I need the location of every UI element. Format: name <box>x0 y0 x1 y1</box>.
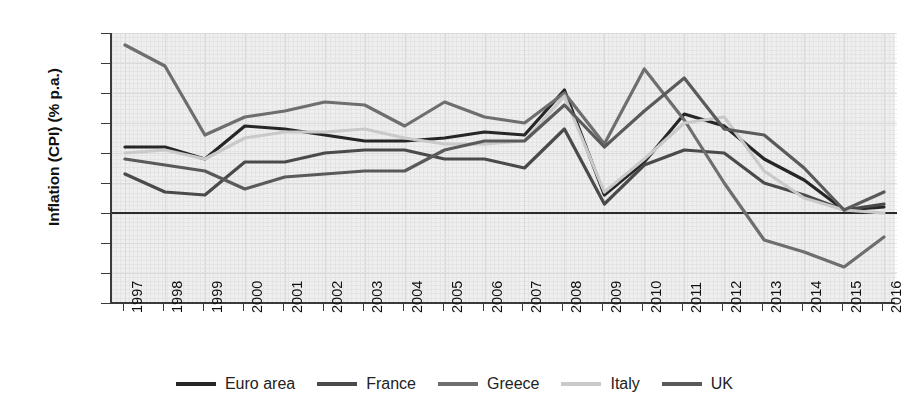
x-tick-mark <box>323 303 324 311</box>
x-tick-label: 2012 <box>728 281 744 313</box>
x-tick-label: 1998 <box>169 281 185 313</box>
legend-swatch <box>561 382 601 386</box>
x-tick-mark <box>283 303 284 311</box>
x-tick-label: 2000 <box>249 281 265 313</box>
x-tick-mark <box>363 303 364 311</box>
chart-legend: Euro areaFranceGreeceItalyUK <box>0 375 909 393</box>
y-tick-mark <box>101 123 110 124</box>
x-tick-label: 2015 <box>848 281 864 313</box>
legend-swatch <box>662 382 702 386</box>
series-line-italy <box>125 96 884 213</box>
x-tick-mark <box>562 303 563 311</box>
legend-item-france[interactable]: France <box>317 375 416 393</box>
x-tick-label: 2004 <box>409 281 425 313</box>
legend-item-italy[interactable]: Italy <box>561 375 639 393</box>
x-tick-mark <box>882 303 883 311</box>
y-tick-mark <box>101 273 110 274</box>
legend-label: Greece <box>487 375 539 393</box>
x-tick-label: 2013 <box>768 281 784 313</box>
x-tick-label: 1999 <box>209 281 225 313</box>
x-tick-mark <box>243 303 244 311</box>
legend-swatch <box>176 382 216 386</box>
x-tick-label: 2009 <box>608 281 624 313</box>
series-line-euro-area <box>125 90 884 210</box>
y-tick-mark <box>101 33 110 34</box>
y-tick-mark <box>101 183 110 184</box>
legend-item-uk[interactable]: UK <box>662 375 733 393</box>
x-tick-mark <box>602 303 603 311</box>
x-tick-mark <box>163 303 164 311</box>
x-tick-mark <box>483 303 484 311</box>
x-tick-label: 2006 <box>489 281 505 313</box>
x-tick-label: 2001 <box>289 281 305 313</box>
y-tick-mark <box>101 303 110 304</box>
x-tick-label: 2003 <box>369 281 385 313</box>
y-tick-mark <box>101 243 110 244</box>
x-tick-label: 1997 <box>129 281 145 313</box>
y-tick-mark <box>101 213 110 214</box>
y-tick-mark <box>101 93 110 94</box>
x-tick-mark <box>762 303 763 311</box>
x-tick-label: 2011 <box>688 282 704 313</box>
plot-area <box>110 33 895 303</box>
x-tick-mark <box>403 303 404 311</box>
x-tick-mark <box>203 303 204 311</box>
x-tick-mark <box>443 303 444 311</box>
y-tick-mark <box>101 63 110 64</box>
x-tick-mark <box>642 303 643 311</box>
legend-swatch <box>438 382 478 386</box>
y-axis-ticks: 6543210−1−2−3 <box>0 0 110 410</box>
series-lines <box>112 33 897 303</box>
x-tick-mark <box>722 303 723 311</box>
x-tick-label: 2008 <box>568 281 584 313</box>
series-line-greece <box>125 45 884 267</box>
x-tick-mark <box>522 303 523 311</box>
legend-item-euro-area[interactable]: Euro area <box>176 375 295 393</box>
x-tick-label: 2016 <box>888 281 904 313</box>
legend-item-greece[interactable]: Greece <box>438 375 539 393</box>
x-tick-label: 2007 <box>528 281 544 313</box>
legend-label: Euro area <box>225 375 295 393</box>
legend-swatch <box>317 382 357 386</box>
legend-label: Italy <box>610 375 639 393</box>
legend-label: France <box>366 375 416 393</box>
x-tick-label: 2010 <box>648 281 664 313</box>
y-tick-mark <box>101 153 110 154</box>
x-tick-label: 2014 <box>808 281 824 313</box>
x-tick-mark <box>842 303 843 311</box>
inflation-line-chart: Inflation (CPI) (% p.a.) 6543210−1−2−3 1… <box>0 0 909 410</box>
x-tick-label: 2002 <box>329 281 345 313</box>
x-tick-label: 2005 <box>449 281 465 313</box>
legend-label: UK <box>711 375 733 393</box>
x-tick-mark <box>123 303 124 311</box>
x-tick-mark <box>802 303 803 311</box>
x-tick-mark <box>682 303 683 311</box>
